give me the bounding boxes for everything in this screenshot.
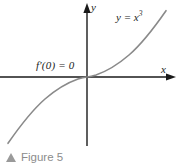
y-axis-arrow-icon (83, 3, 90, 13)
cubic-function-plot (0, 0, 177, 148)
y-axis-label: y (91, 2, 96, 13)
x-axis-arrow-icon (166, 73, 176, 80)
equation-label: y = x3 (116, 10, 142, 23)
equation-base: y = x (116, 11, 139, 23)
figure-caption: Figure 5 (6, 148, 63, 166)
triangle-up-icon (6, 153, 16, 162)
figure-container: y x y = x3 f′(0) = 0 Figure 5 (0, 0, 177, 168)
x-axis-label: x (161, 64, 166, 75)
figure-caption-text: Figure 5 (21, 151, 63, 163)
derivative-annotation: f′(0) = 0 (36, 60, 75, 71)
plot-area: y x y = x3 f′(0) = 0 (0, 0, 177, 148)
equation-exponent: 3 (139, 9, 143, 18)
